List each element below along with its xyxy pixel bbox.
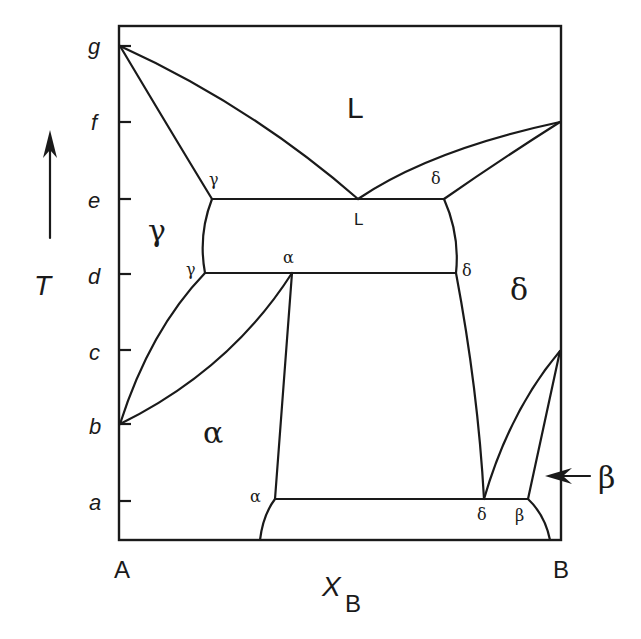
temperature-ticks <box>119 46 131 501</box>
point-label-a-alpha: α <box>250 487 261 506</box>
gamma-solvus-ed <box>203 199 212 273</box>
phase-boundaries <box>120 46 560 540</box>
point-label-d-alpha: α <box>283 248 294 267</box>
point-label-d-gamma: γ <box>186 260 196 279</box>
point-labels: γ δ L γ α δ α δ β <box>186 169 524 525</box>
composition-axis-main: X <box>321 571 342 602</box>
alpha-solvus <box>275 273 292 499</box>
component-label-a: A <box>114 556 130 583</box>
beta-callout-label: β <box>598 460 615 495</box>
tick-label-e: e <box>88 188 100 213</box>
plot-frame <box>119 26 561 540</box>
gamma-alpha-boundary-lower <box>120 273 292 424</box>
composition-axis-subscript: B <box>345 590 361 617</box>
region-label-gamma: γ <box>148 213 166 248</box>
point-label-e-delta: δ <box>431 169 441 188</box>
temperature-arrow-icon <box>43 130 57 238</box>
composition-axis-label: X B <box>321 571 361 617</box>
point-label-e-gamma: γ <box>209 170 219 189</box>
tick-label-f: f <box>91 110 100 135</box>
temperature-tick-labels: g f e d c b a <box>88 34 101 515</box>
delta-solvus-da <box>456 273 484 499</box>
point-label-e-liquid: L <box>354 210 363 229</box>
tick-label-b: b <box>89 414 101 439</box>
component-label-b: B <box>553 556 569 583</box>
tick-label-g: g <box>88 34 101 59</box>
alpha-solvus-low <box>260 499 275 540</box>
left-arrow-icon <box>545 468 590 484</box>
point-label-d-delta: δ <box>462 261 472 280</box>
liquidus-left <box>120 46 358 199</box>
point-label-a-delta: δ <box>477 505 487 524</box>
point-label-a-beta: β <box>515 506 524 525</box>
solidus-delta <box>444 122 560 199</box>
tick-label-d: d <box>88 264 101 289</box>
tick-label-c: c <box>89 340 100 365</box>
phase-diagram: g f e d c b a <box>0 0 641 639</box>
delta-solvus-ed <box>444 199 457 273</box>
region-label-liquid: L <box>347 91 364 124</box>
beta-solvus-low <box>528 499 550 540</box>
tick-label-a: a <box>89 490 101 515</box>
region-label-alpha: α <box>203 415 223 450</box>
region-label-delta: δ <box>510 272 528 307</box>
temperature-axis-label: T <box>34 270 53 301</box>
